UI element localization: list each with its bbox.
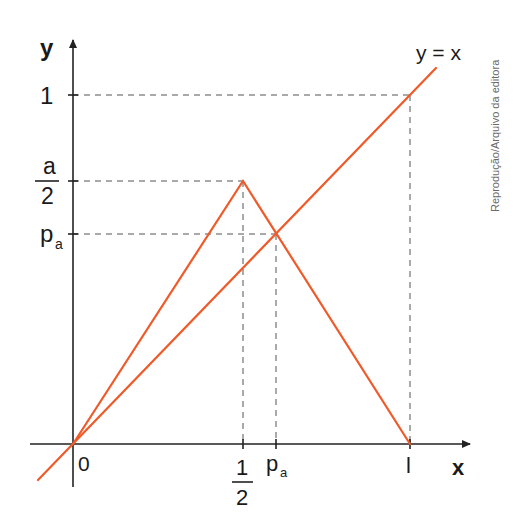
origin-label: 0 [78,452,90,475]
y-tick-pa-label: p a [40,220,63,252]
x-tick-one-label: l [406,453,411,478]
pa-subscript: a [280,465,288,480]
pa-main: p [40,220,53,247]
fraction-denominator: 2 [41,183,54,209]
fraction-numerator: a [43,153,56,179]
x-tick-half-label: 1 2 [232,455,253,510]
curves [38,68,436,480]
y-tick-one-label: 1 [40,82,53,109]
image-credit: Reprodução/Arquivo da editora [489,59,501,212]
fraction-numerator: 1 [236,455,248,480]
identity-line-label: y = x [416,41,461,64]
tent-map [73,181,410,444]
identity-line [38,68,436,480]
fraction-denominator: 2 [236,485,248,510]
x-axis-label: x [452,455,465,480]
diagram-canvas: y x 0 1 a 2 p a 1 2 p a l y = x Reproduç… [0,0,523,530]
y-axis-label: y [40,34,54,61]
y-tick-a-over-2-label: a 2 [35,153,59,209]
x-tick-pa-label: p a [266,451,288,480]
pa-subscript: a [55,236,63,252]
pa-main: p [266,451,278,476]
